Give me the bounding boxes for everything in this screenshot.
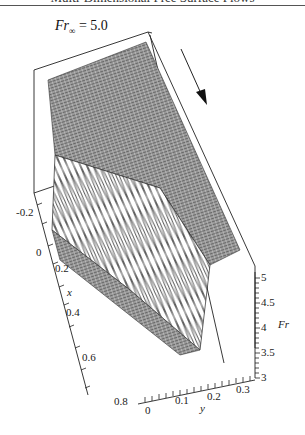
svg-text:5: 5 (261, 271, 267, 283)
svg-text:0: 0 (36, 246, 42, 258)
svg-text:0.2: 0.2 (207, 390, 221, 402)
svg-text:0.3: 0.3 (236, 383, 250, 395)
z-axis: 3 3.5 4 4.5 5 Fr (255, 271, 290, 383)
svg-text:3.5: 3.5 (261, 346, 275, 358)
y-axis-label: y (199, 402, 205, 414)
svg-text:4.5: 4.5 (261, 296, 275, 308)
flow-direction-arrow-icon (181, 49, 207, 105)
svg-text:0.8: 0.8 (114, 395, 128, 407)
y-axis: 0 0.1 0.2 0.3 y (138, 376, 255, 416)
x-axis-label: x (66, 286, 72, 298)
svg-text:4: 4 (261, 321, 267, 333)
chart-title: Fr∞ = 5.0 (54, 18, 108, 36)
z-axis-label: Fr (277, 318, 290, 330)
svg-text:0.6: 0.6 (82, 351, 96, 363)
svg-text:0: 0 (145, 404, 151, 416)
svg-text:0.4: 0.4 (66, 306, 80, 318)
svg-text:0.1: 0.1 (175, 394, 189, 406)
svg-text:3: 3 (261, 371, 267, 383)
svg-text:0.2: 0.2 (55, 262, 69, 274)
svg-text:-0.2: -0.2 (16, 206, 33, 218)
surface-plot: Fr∞ = 5.0 -0.2 0 0.2 0.4 0.6 0.8 x (0, 0, 305, 435)
